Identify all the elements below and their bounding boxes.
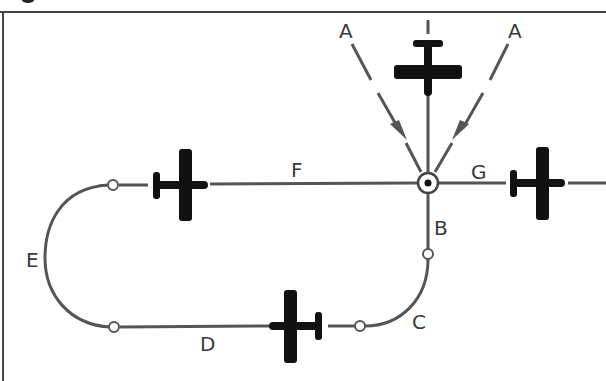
label-f: F	[291, 158, 303, 182]
arrow-left-dash-3	[406, 143, 421, 172]
aircraft-outbound-left-leg-icon	[153, 149, 208, 221]
aircraft-inbound-leg-icon	[269, 290, 322, 363]
arrow-right-dash-3	[435, 143, 452, 172]
cut-off-caption	[22, 0, 34, 3]
label-c: C	[412, 310, 426, 334]
holding-pattern-diagram: A A B C D E F G	[0, 0, 606, 381]
track-e-turn	[45, 185, 110, 327]
turn-point-f	[108, 180, 118, 190]
turn-point-d	[109, 322, 119, 332]
label-b: B	[434, 216, 448, 240]
label-g: G	[471, 160, 487, 184]
label-a-left: A	[339, 19, 353, 43]
arrow-right-dash-1	[490, 44, 508, 80]
arrow-right-head-icon	[452, 120, 469, 140]
label-a-right: A	[508, 19, 522, 43]
track-f-leg	[210, 183, 418, 184]
turn-point-c	[355, 321, 365, 331]
holding-fix-dot	[425, 180, 432, 187]
aircraft-inbound-top-icon	[394, 40, 462, 96]
aircraft-departing-right-icon	[510, 147, 565, 220]
turn-point-b	[423, 249, 433, 259]
holding-track	[45, 20, 606, 327]
label-e: E	[26, 248, 39, 272]
arrow-left-head-icon	[390, 120, 407, 140]
label-d: D	[200, 332, 215, 356]
diagram-canvas: A A B C D E F G	[0, 0, 606, 381]
arrow-left-dash-1	[352, 44, 371, 80]
track-d-leg	[120, 326, 270, 327]
